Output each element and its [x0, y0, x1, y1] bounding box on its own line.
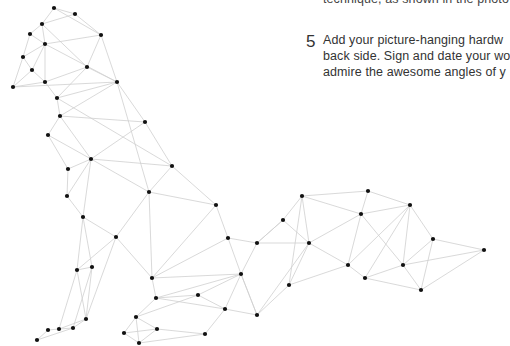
edge-line — [309, 243, 348, 265]
edge-line — [241, 243, 257, 274]
vertex-dot — [52, 6, 56, 10]
edge-line — [348, 265, 365, 278]
step-text: Add your picture-hanging hardw back side… — [323, 32, 510, 80]
edge-line — [32, 70, 45, 82]
vertex-dot — [203, 332, 207, 336]
edge-line — [365, 278, 421, 290]
vertex-dot — [89, 157, 93, 161]
edge-line — [433, 239, 484, 250]
vertex-dot — [46, 328, 50, 332]
step-text-line: admire the awesome angles of y — [323, 64, 510, 80]
edge-line — [302, 196, 361, 214]
edge-line — [136, 298, 156, 317]
vertex-dot — [223, 307, 227, 311]
vertex-dot — [239, 272, 243, 276]
edge-line — [60, 116, 145, 122]
edge-line — [42, 14, 75, 24]
edge-line — [23, 57, 32, 70]
vertex-dot — [85, 65, 89, 69]
vertex-dot — [307, 241, 311, 245]
vertex-dot — [40, 22, 44, 26]
vertex-dot — [482, 248, 486, 252]
edge-line — [48, 135, 68, 169]
vertex-dot — [150, 276, 154, 280]
edge-line — [136, 317, 157, 329]
vertex-dot — [55, 96, 59, 100]
edge-line — [348, 214, 361, 265]
edge-line — [309, 214, 361, 243]
edge-line — [87, 35, 101, 67]
edge-line — [228, 238, 257, 243]
vertex-dot — [65, 194, 69, 198]
vertex-dot — [99, 33, 103, 37]
edge-line — [67, 196, 83, 217]
vertex-dot — [46, 133, 50, 137]
edge-line — [361, 191, 368, 214]
edge-line — [30, 34, 45, 44]
vertex-dot — [363, 276, 367, 280]
edge-line — [77, 217, 83, 270]
edge-line — [421, 239, 433, 290]
edge-line — [91, 159, 149, 192]
edge-line — [124, 333, 139, 343]
step-text-line: Add your picture-hanging hardw — [323, 32, 510, 48]
edge-line — [289, 265, 348, 285]
edge-line — [149, 166, 172, 192]
edge-line — [37, 328, 73, 340]
edge-line — [403, 239, 433, 265]
edge-line — [57, 98, 172, 166]
edge-line — [83, 217, 92, 267]
edge-line — [54, 8, 101, 35]
edge-line — [60, 82, 117, 116]
vertex-dot — [287, 283, 291, 287]
edge-line — [30, 24, 42, 34]
edge-line — [116, 237, 152, 278]
edge-line — [157, 329, 205, 334]
edge-line — [45, 67, 87, 82]
edge-line — [48, 135, 91, 159]
vertex-dot — [255, 313, 259, 317]
edge-line — [302, 196, 309, 243]
edge-line — [225, 309, 257, 315]
edge-line — [152, 278, 156, 298]
edge-line — [45, 35, 101, 44]
edge-line — [91, 159, 172, 166]
vertex-dot — [137, 341, 141, 345]
vertex-dot — [84, 317, 88, 321]
edge-line — [225, 274, 241, 309]
edge-line — [361, 214, 403, 265]
vertex-dot — [81, 215, 85, 219]
vertex-dot — [58, 114, 62, 118]
vertex-dot — [366, 189, 370, 193]
edge-line — [241, 274, 257, 315]
vertex-dot — [155, 327, 159, 331]
vertex-dot — [90, 265, 94, 269]
edge-line — [136, 317, 139, 343]
vertex-dot — [255, 241, 259, 245]
step-number: 5 — [306, 32, 315, 52]
vertex-dot — [154, 296, 158, 300]
edge-line — [152, 238, 228, 278]
vertex-dot — [66, 167, 70, 171]
edge-line — [42, 24, 87, 67]
edge-line — [302, 191, 368, 196]
edge-line — [116, 192, 149, 237]
edge-line — [75, 14, 101, 35]
vertex-dot — [57, 327, 61, 331]
edge-line — [57, 67, 87, 98]
vertex-dot — [401, 263, 405, 267]
previous-step-text: technique, as shown in the photo — [323, 0, 509, 6]
vertex-dot — [28, 32, 32, 36]
edge-line — [149, 192, 216, 205]
edge-line — [91, 122, 145, 159]
edge-line — [149, 192, 152, 278]
edge-line — [57, 98, 60, 116]
edge-line — [60, 116, 91, 159]
edge-line — [257, 220, 283, 243]
vertex-dot — [43, 80, 47, 84]
edge-line — [152, 205, 216, 278]
vertex-dot — [115, 80, 119, 84]
edge-line — [368, 191, 410, 205]
edge-line — [54, 8, 75, 14]
vertex-dot — [147, 190, 151, 194]
